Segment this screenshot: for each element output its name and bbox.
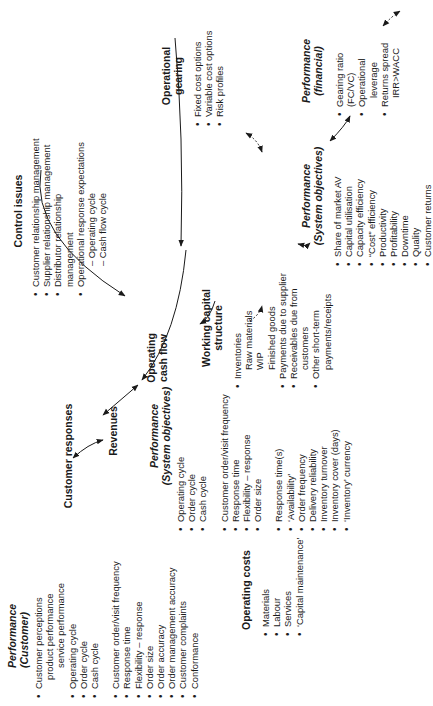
list-item: ‘Availability’ <box>285 381 296 531</box>
list-item: customers <box>299 248 310 388</box>
list-item: Profitability <box>388 126 399 266</box>
list-item: Cash cycle <box>89 548 100 698</box>
performance-system-left-title: Performance (System objectives) <box>148 381 172 491</box>
performance-system-right-box: Performance (System objectives) Share of… <box>300 126 433 266</box>
list-item: leverage <box>368 6 379 116</box>
list-item: Receivables due from <box>288 248 299 388</box>
list-item: Inventory cover (days) <box>329 381 340 531</box>
list-item: Gearing ratio <box>334 6 345 116</box>
list-item: Response time <box>121 548 132 698</box>
list-item: Labour <box>271 516 282 636</box>
operational-gearing-box: Operational gearing Fixed cost options V… <box>160 6 226 126</box>
performance-system-left-list-1: Operating cycle Order cycle Cash cycle <box>175 381 209 531</box>
list-item: management <box>64 121 75 296</box>
list-item: Variable cost options <box>203 6 214 126</box>
list-item: Materials <box>260 516 271 636</box>
list-item: Customer returns <box>422 126 433 266</box>
list-item: Customer perceptions <box>33 548 44 698</box>
list-item: Finished goods <box>266 248 277 388</box>
list-item: payments/receipts <box>322 248 333 388</box>
list-item: Order cycle <box>186 381 197 531</box>
list-item: Capital utilisation <box>343 126 354 266</box>
list-item: Operational <box>356 6 367 116</box>
working-capital-box: Working capital structure Inventories Ra… <box>200 248 333 388</box>
list-item: Operating cycle <box>67 548 78 698</box>
list-item: Response time(s) <box>273 381 284 531</box>
list-item: Customer complaints <box>177 548 188 698</box>
list-item: – Cash flow cycle <box>97 121 108 296</box>
performance-system-left-box: Performance (System objectives) Operatin… <box>148 381 352 531</box>
list-item: Payments due to supplier <box>277 248 288 388</box>
list-item: Capacity efficiency <box>354 126 365 266</box>
list-item: Order size <box>144 548 155 698</box>
list-item: Returns spread <box>379 6 390 116</box>
customer-responses-title: Customer responses <box>62 401 74 511</box>
list-item: product performance <box>44 548 55 698</box>
list-item: Order management accuracy <box>166 548 177 698</box>
performance-system-right-list: Share of market AV Capital utilisation C… <box>332 126 433 266</box>
list-item: Inventories <box>232 248 243 388</box>
list-item: Flexibility – response <box>133 548 144 698</box>
list-item: Flexibility – response <box>241 381 252 531</box>
list-item: “Cost” efficiency <box>366 126 377 266</box>
list-item: Raw materials <box>243 248 254 388</box>
operating-costs-title: Operating costs <box>240 516 252 636</box>
operational-gearing-list: Fixed cost options Variable cost options… <box>192 6 226 126</box>
list-item: Delivery reliability <box>307 381 318 531</box>
list-item: Order accuracy <box>155 548 166 698</box>
list-item: (FC/VC) <box>345 6 356 116</box>
list-item: Inventory turnover <box>318 381 329 531</box>
list-item: Fixed cost options <box>192 6 203 126</box>
working-capital-list: Inventories Raw materials WIP Finished g… <box>232 248 333 388</box>
list-item: Operational response expectations <box>75 121 86 296</box>
performance-financial-box: Performance (financial) Gearing ratio (F… <box>300 6 401 116</box>
revenues-title: Revenues <box>107 396 119 466</box>
list-item: Distributor relationship <box>52 121 63 296</box>
list-item: Order size <box>252 381 263 531</box>
operating-costs-list: Materials Labour Services ‘Capital maint… <box>260 516 305 636</box>
list-item: – Operating cycle <box>86 121 97 296</box>
list-item: Order frequency <box>296 381 307 531</box>
working-capital-title: Working capital structure <box>200 278 224 378</box>
list-item: Order cycle <box>78 548 89 698</box>
list-item: Risk profiles <box>214 6 225 126</box>
list-item: ‘Inventory’ currency <box>341 381 352 531</box>
list-item: Operating cycle <box>175 381 186 531</box>
list-item: Quality <box>410 126 421 266</box>
list-item: service performance <box>55 548 66 698</box>
list-item: Downtime <box>399 126 410 266</box>
control-issues-box: Control issues Customer relationship man… <box>12 121 108 296</box>
performance-customer-box: Performance (Customer) Customer percepti… <box>6 548 200 698</box>
performance-customer-list-1: Customer perceptions product performance… <box>33 548 100 698</box>
list-item: Customer order/visit frequency <box>110 548 121 698</box>
list-item: ‘Capital maintenance’ <box>294 516 305 636</box>
performance-customer-title: Performance (Customer) <box>6 548 30 698</box>
list-item: Other short-term <box>310 248 321 388</box>
performance-financial-title: Performance (financial) <box>300 26 324 116</box>
control-issues-title: Control issues <box>12 156 24 266</box>
operational-gearing-title: Operational gearing <box>160 36 184 116</box>
operating-cash-flow-title: Operating cash flow <box>145 328 169 388</box>
list-item: WIP <box>254 248 265 388</box>
list-item: Supplier relationship management <box>41 121 52 296</box>
performance-system-left-list-3: Response time(s) ‘Availability’ Order fr… <box>273 381 351 531</box>
list-item: Services <box>282 516 293 636</box>
performance-system-left-list-2: Customer order/visit frequency Response … <box>219 381 264 531</box>
operating-costs-box: Operating costs Materials Labour Service… <box>240 516 305 636</box>
control-issues-list: Customer relationship management Supplie… <box>30 121 108 296</box>
list-item: Conformance <box>189 548 200 698</box>
list-item: Customer relationship management <box>30 121 41 296</box>
list-item: Customer order/visit frequency <box>219 381 230 531</box>
list-item: IRR>WACC <box>390 6 401 116</box>
list-item: Cash cycle <box>197 381 208 531</box>
performance-financial-list: Gearing ratio (FC/VC) Operational levera… <box>334 6 401 116</box>
performance-customer-list-2: Customer order/visit frequency Response … <box>110 548 200 698</box>
list-item: Share of market AV <box>332 126 343 266</box>
list-item: Response time <box>230 381 241 531</box>
performance-system-right-title: Performance (System objectives) <box>300 141 324 251</box>
list-item: Productivity <box>377 126 388 266</box>
